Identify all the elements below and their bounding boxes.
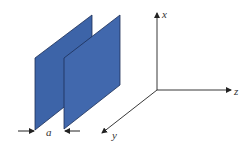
diagram-svg: a x z y: [0, 0, 251, 149]
gap-label: a: [46, 126, 52, 138]
x-axis-label: x: [161, 8, 167, 20]
diagram-canvas: a x z y: [0, 0, 251, 149]
z-axis-label: z: [233, 85, 239, 97]
y-axis: [102, 90, 157, 133]
y-axis-label: y: [111, 129, 117, 141]
